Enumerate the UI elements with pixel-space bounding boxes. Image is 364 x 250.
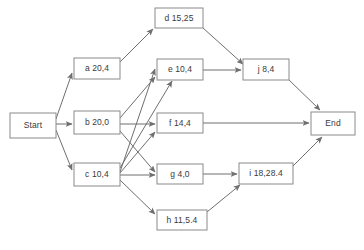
edge-a-to-d xyxy=(120,29,153,62)
node-label-h: h 11,5.4 xyxy=(167,215,198,225)
node-a[interactable]: a 20,4 xyxy=(74,58,120,79)
node-label-g: g 4,0 xyxy=(170,169,190,179)
nodes-layer: Starta 20,4b 20,0c 10,4d 15,25e 10,4f 14… xyxy=(10,8,355,230)
edge-d-to-j xyxy=(203,28,243,64)
node-label-i: i 18,28.4 xyxy=(249,168,283,178)
node-label-c: c 10,4 xyxy=(85,169,109,179)
diagram-canvas: Starta 20,4b 20,0c 10,4d 15,25e 10,4f 14… xyxy=(0,0,364,250)
node-label-end: End xyxy=(325,118,341,128)
edge-j-to-end xyxy=(289,80,320,110)
node-label-b: b 20,0 xyxy=(85,117,109,127)
node-e[interactable]: e 10,4 xyxy=(157,59,203,80)
node-label-a: a 20,4 xyxy=(85,63,109,73)
node-i[interactable]: i 18,28.4 xyxy=(239,163,293,184)
edge-h-to-i xyxy=(207,185,240,212)
node-j[interactable]: j 8,4 xyxy=(243,59,289,80)
node-label-d: d 15,25 xyxy=(164,13,193,23)
node-label-f: f 14,4 xyxy=(169,118,191,128)
edge-c-to-e xyxy=(120,69,155,172)
node-f[interactable]: f 14,4 xyxy=(157,113,203,133)
edge-start-to-c xyxy=(56,130,72,170)
node-label-e: e 10,4 xyxy=(168,64,192,74)
node-end[interactable]: End xyxy=(311,112,355,135)
edge-start-to-a xyxy=(56,73,72,119)
node-c[interactable]: c 10,4 xyxy=(74,163,120,186)
edge-b-to-g xyxy=(120,131,155,172)
node-label-j: j 8,4 xyxy=(257,64,275,74)
node-h[interactable]: h 11,5.4 xyxy=(157,210,207,230)
activity-network-diagram: Starta 20,4b 20,0c 10,4d 15,25e 10,4f 14… xyxy=(0,0,364,250)
edge-c-to-h xyxy=(120,180,155,214)
edge-i-to-end xyxy=(293,137,322,166)
node-label-start: Start xyxy=(24,120,43,130)
node-b[interactable]: b 20,0 xyxy=(74,111,120,134)
node-d[interactable]: d 15,25 xyxy=(155,8,203,28)
node-start[interactable]: Start xyxy=(10,113,56,138)
node-g[interactable]: g 4,0 xyxy=(157,164,203,184)
